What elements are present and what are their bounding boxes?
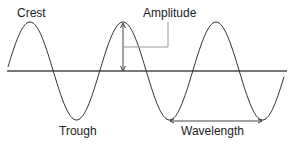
crest-label: Crest — [17, 7, 46, 19]
wave-diagram — [0, 0, 293, 145]
amplitude-label: Amplitude — [143, 7, 196, 19]
wavelength-label: Wavelength — [181, 125, 244, 137]
wavelength-indicator — [170, 119, 262, 123]
trough-label: Trough — [59, 125, 97, 137]
